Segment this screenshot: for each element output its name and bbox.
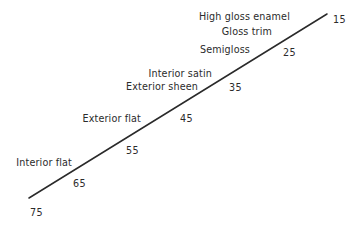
sheen-label-semigloss: Semigloss [200,44,250,55]
gloss-value-15: 15 [333,14,346,25]
sheen-label-exterior-sheen: Exterior sheen [126,81,198,92]
sheen-label-gloss-trim: Gloss trim [222,26,272,37]
gloss-value-75: 75 [30,207,43,218]
gloss-scale-figure: High gloss enamel Gloss trim Semigloss I… [0,0,352,229]
gloss-value-25: 25 [283,47,296,58]
gloss-value-65: 65 [73,178,86,189]
sheen-label-high-gloss-enamel: High gloss enamel [199,11,290,22]
sheen-label-exterior-flat: Exterior flat [82,113,141,124]
gloss-scale-line [29,14,327,198]
gloss-scale-line-svg [0,0,352,229]
gloss-value-55: 55 [126,145,139,156]
gloss-value-45: 45 [180,113,193,124]
sheen-label-interior-satin: Interior satin [148,68,212,79]
gloss-value-35: 35 [229,82,242,93]
sheen-label-interior-flat: Interior flat [16,157,72,168]
